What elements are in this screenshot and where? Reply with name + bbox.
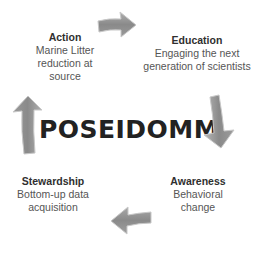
action-desc-line-2: reduction at (20, 57, 110, 70)
arrow-right-icon (95, 10, 139, 40)
stewardship-desc-line-1: Bottom-up data (12, 188, 94, 201)
education-desc-line-1: Engaging the next (138, 47, 256, 60)
action-desc-line-1: Marine Litter (20, 44, 110, 57)
education-desc-line-2: generation of scientists (138, 60, 256, 73)
awareness-block: Awareness Behavioral change (160, 175, 236, 214)
stewardship-title: Stewardship (12, 175, 94, 188)
awareness-desc-line-2: change (160, 201, 236, 214)
arrow-down-icon (201, 93, 239, 151)
action-desc-line-3: source (20, 70, 110, 83)
awareness-title: Awareness (160, 175, 236, 188)
stewardship-block: Stewardship Bottom-up data acquisition (12, 175, 94, 214)
stewardship-desc-line-2: acquisition (12, 201, 94, 214)
arrow-left-icon (108, 204, 154, 236)
awareness-desc-line-1: Behavioral (160, 188, 236, 201)
education-title: Education (138, 34, 256, 47)
arrow-up-icon (10, 93, 44, 157)
education-block: Education Engaging the next generation o… (138, 34, 256, 73)
